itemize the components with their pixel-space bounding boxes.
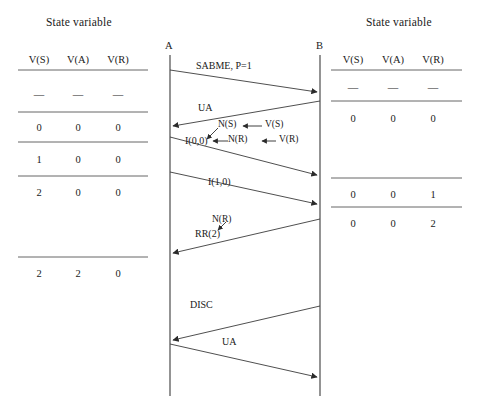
left-cell-r1-c0: 0 bbox=[22, 123, 56, 134]
annotation-label-ns: N(S) bbox=[218, 120, 236, 130]
left-cell-r0-c1: — bbox=[61, 90, 95, 101]
left-cell-r2-c0: 1 bbox=[22, 155, 56, 166]
message-arrow-sabme bbox=[170, 70, 317, 92]
right-cell-r2-c1: 0 bbox=[376, 190, 410, 201]
right-cell-r1-c2: 0 bbox=[416, 114, 450, 125]
right-cell-r2-c0: 0 bbox=[336, 190, 370, 201]
right-cell-r1-c1: 0 bbox=[376, 114, 410, 125]
right-cell-r0-c2: — bbox=[416, 83, 450, 94]
message-label-ua-1: UA bbox=[198, 103, 212, 113]
right-cell-r3-c1: 0 bbox=[376, 219, 410, 230]
right-cell-r0-c0: — bbox=[336, 83, 370, 94]
left-cell-r4-c1: 2 bbox=[61, 269, 95, 280]
message-arrow-disc bbox=[173, 306, 320, 340]
left-cell-r0-c2: — bbox=[101, 90, 135, 101]
left-cell-r1-c1: 0 bbox=[61, 123, 95, 134]
left-cell-r4-c0: 2 bbox=[22, 269, 56, 280]
message-label-sabme: SABME, P=1 bbox=[196, 61, 252, 71]
right-col-header-vs: V(S) bbox=[336, 55, 370, 66]
message-label-rr2: RR(2) bbox=[195, 229, 220, 239]
right-cell-r3-c0: 0 bbox=[336, 219, 370, 230]
annotation-label-vr: V(R) bbox=[279, 135, 299, 145]
left-cell-r2-c2: 0 bbox=[101, 155, 135, 166]
right-col-header-vr: V(R) bbox=[416, 55, 450, 66]
left-cell-r4-c2: 0 bbox=[101, 269, 135, 280]
right-col-header-va: V(A) bbox=[376, 55, 410, 66]
left-cell-r2-c1: 0 bbox=[61, 155, 95, 166]
left-state-variable-title: State variable bbox=[46, 17, 112, 29]
left-cell-r3-c2: 0 bbox=[101, 188, 135, 199]
message-label-i00: I(0,0) bbox=[185, 136, 208, 146]
left-col-header-vs: V(S) bbox=[22, 55, 56, 66]
message-label-disc: DISC bbox=[190, 300, 213, 310]
annotation-label-nr2: N(R) bbox=[212, 215, 232, 225]
left-cell-r3-c1: 0 bbox=[61, 188, 95, 199]
left-col-header-vr: V(R) bbox=[101, 55, 135, 66]
left-cell-r3-c0: 2 bbox=[22, 188, 56, 199]
right-cell-r2-c2: 1 bbox=[416, 190, 450, 201]
message-label-i10: I(1,0) bbox=[208, 177, 231, 187]
right-cell-r0-c1: — bbox=[376, 83, 410, 94]
right-cell-r1-c0: 0 bbox=[336, 114, 370, 125]
right-state-variable-title: State variable bbox=[366, 17, 432, 29]
annotation-label-nr: N(R) bbox=[228, 135, 248, 145]
annotation-arrow-ns-i00 bbox=[207, 128, 218, 139]
diagram-canvas: State variable State variable A B V(S) V… bbox=[0, 0, 481, 408]
node-label-b: B bbox=[316, 41, 323, 52]
left-cell-r0-c0: — bbox=[22, 90, 56, 101]
node-label-a: A bbox=[165, 41, 173, 52]
message-arrow-i10 bbox=[170, 172, 317, 204]
message-label-ua-2: UA bbox=[222, 337, 236, 347]
annotation-label-vs: V(S) bbox=[265, 120, 283, 130]
left-cell-r1-c2: 0 bbox=[101, 123, 135, 134]
message-arrow-ua-1 bbox=[173, 101, 320, 126]
right-cell-r3-c2: 2 bbox=[416, 219, 450, 230]
left-col-header-va: V(A) bbox=[61, 55, 95, 66]
message-arrow-ua-2 bbox=[170, 344, 317, 377]
